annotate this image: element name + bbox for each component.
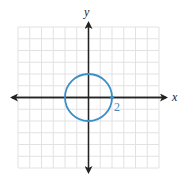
y-axis-label: y	[83, 5, 90, 19]
radius-label: 2	[114, 100, 120, 114]
x-axis-label: x	[171, 90, 178, 104]
point-marker	[110, 96, 114, 100]
coordinate-plane: x y 2	[0, 0, 181, 177]
